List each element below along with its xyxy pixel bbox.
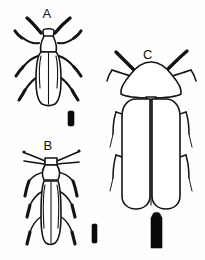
figure-a-pronotum [41,36,57,52]
scale-bar-a [68,111,74,126]
figure-b-pronotum [43,165,60,180]
scale-bar-c [151,213,162,249]
figure-c-elytron-right [152,99,180,209]
figure-b-label: B [43,138,52,153]
figure-a-label: A [42,6,51,21]
figure-c-label: C [143,47,153,62]
figure-c-elytron-left [122,99,150,209]
beetle-plate: A [0,0,205,260]
scale-bar-b [92,224,97,243]
figure-b-head [45,158,57,165]
plate-canvas: A [0,0,205,260]
